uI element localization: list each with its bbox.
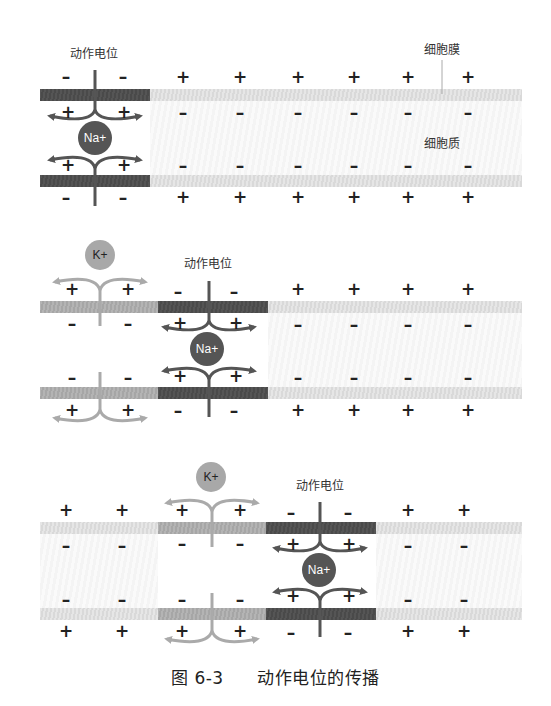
- charge-sign: –: [64, 315, 80, 333]
- charge-sign: +: [175, 188, 191, 206]
- cytoplasm-label: 细胞质: [424, 134, 460, 151]
- charge-sign: +: [290, 188, 306, 206]
- charge-sign: –: [346, 316, 362, 334]
- charge-sign: +: [400, 280, 416, 298]
- charge-sign: –: [114, 537, 130, 555]
- membrane-top-resting: [268, 301, 522, 313]
- charge-sign: +: [175, 68, 191, 86]
- charge-sign: +: [290, 280, 306, 298]
- charge-sign: –: [115, 68, 131, 86]
- charge-sign: +: [174, 622, 190, 640]
- figure-number: 图 6-3: [171, 668, 224, 688]
- charge-sign: +: [285, 535, 301, 553]
- membrane-top-resting: [40, 522, 158, 534]
- charge-sign: –: [340, 504, 356, 522]
- membrane-bottom-repolarizing: [158, 608, 266, 620]
- charge-sign: –: [290, 104, 306, 122]
- charge-sign: –: [232, 157, 248, 175]
- charge-sign: +: [64, 280, 80, 298]
- charge-sign: –: [400, 591, 416, 609]
- membrane-top-depolarized: [40, 89, 150, 101]
- charge-sign: –: [232, 104, 248, 122]
- cytoplasm-area: [268, 313, 522, 387]
- charge-sign: –: [346, 157, 362, 175]
- charge-sign: –: [120, 315, 136, 333]
- charge-sign: –: [170, 402, 186, 420]
- charge-sign: –: [120, 369, 136, 387]
- charge-sign: +: [346, 280, 362, 298]
- sodium-ion: Na+: [190, 332, 224, 366]
- charge-sign: +: [228, 314, 244, 332]
- membrane-top-depolarized: [266, 522, 376, 534]
- membrane-top-repolarizing: [158, 522, 266, 534]
- charge-sign: –: [226, 283, 242, 301]
- charge-sign: –: [346, 104, 362, 122]
- charge-sign: –: [400, 369, 416, 387]
- figure-title: 动作电位的传播: [257, 668, 380, 688]
- charge-sign: –: [400, 157, 416, 175]
- charge-sign: +: [456, 501, 472, 519]
- charge-sign: +: [116, 103, 132, 121]
- charge-sign: +: [460, 280, 476, 298]
- charge-sign: –: [346, 369, 362, 387]
- charge-sign: –: [226, 402, 242, 420]
- sodium-ion: Na+: [78, 121, 112, 155]
- charge-sign: +: [58, 622, 74, 640]
- charge-sign: –: [400, 537, 416, 555]
- charge-sign: +: [174, 501, 190, 519]
- charge-sign: +: [346, 188, 362, 206]
- charge-sign: –: [456, 537, 472, 555]
- figure-caption: 图 6-3 动作电位的传播: [0, 664, 551, 689]
- charge-sign: +: [400, 401, 416, 419]
- action-potential-label: 动作电位: [184, 254, 232, 271]
- membrane-bottom-resting: [268, 387, 522, 399]
- membrane-top-resting: [376, 522, 522, 534]
- potassium-ion: K+: [196, 462, 226, 492]
- charge-sign: –: [400, 316, 416, 334]
- charge-sign: +: [400, 68, 416, 86]
- charge-sign: –: [175, 157, 191, 175]
- charge-sign: +: [460, 68, 476, 86]
- charge-sign: +: [232, 68, 248, 86]
- charge-sign: +: [232, 501, 248, 519]
- charge-sign: –: [460, 369, 476, 387]
- charge-sign: +: [341, 535, 357, 553]
- membrane-label: 细胞膜: [424, 40, 460, 57]
- charge-sign: –: [460, 316, 476, 334]
- membrane-bottom-depolarized: [266, 608, 376, 620]
- cytoplasm-area: [376, 534, 522, 608]
- charge-sign: –: [400, 104, 416, 122]
- charge-sign: +: [346, 68, 362, 86]
- charge-sign: +: [400, 501, 416, 519]
- charge-sign: +: [114, 501, 130, 519]
- charge-sign: –: [283, 504, 299, 522]
- membrane-bottom-resting: [376, 608, 522, 620]
- charge-sign: +: [228, 367, 244, 385]
- membrane-top-depolarized: [158, 301, 268, 313]
- charge-sign: –: [232, 591, 248, 609]
- membrane-bottom-depolarized: [40, 175, 150, 187]
- charge-sign: –: [460, 157, 476, 175]
- charge-sign: –: [290, 157, 306, 175]
- charge-sign: +: [460, 188, 476, 206]
- charge-sign: +: [460, 401, 476, 419]
- charge-sign: +: [172, 367, 188, 385]
- charge-sign: +: [232, 622, 248, 640]
- charge-sign: +: [114, 622, 130, 640]
- charge-sign: +: [290, 68, 306, 86]
- charge-sign: –: [58, 537, 74, 555]
- membrane-bottom-depolarized: [158, 387, 268, 399]
- action-potential-label: 动作电位: [296, 476, 344, 493]
- charge-sign: +: [64, 401, 80, 419]
- charge-sign: –: [114, 591, 130, 609]
- charge-sign: –: [115, 189, 131, 207]
- action-potential-label: 动作电位: [70, 44, 118, 61]
- charge-sign: +: [285, 587, 301, 605]
- charge-sign: +: [400, 188, 416, 206]
- charge-sign: +: [120, 401, 136, 419]
- charge-sign: –: [174, 535, 190, 553]
- charge-sign: –: [290, 316, 306, 334]
- membrane-bottom-resting: [150, 175, 522, 187]
- charge-sign: +: [341, 587, 357, 605]
- charge-sign: +: [290, 401, 306, 419]
